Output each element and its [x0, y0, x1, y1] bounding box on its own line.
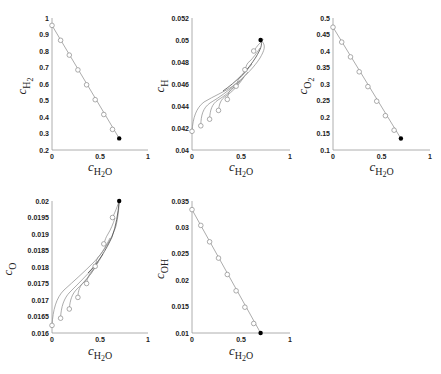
- axes-frame: [333, 18, 430, 150]
- svg-text:0.5: 0.5: [236, 336, 246, 343]
- svg-text:cH2O: cH2O: [229, 159, 253, 179]
- svg-text:0.01: 0.01: [175, 330, 189, 337]
- svg-text:0.035: 0.035: [171, 198, 189, 205]
- x-axis-label: cH2O: [229, 159, 253, 179]
- equilibrium-point: [117, 199, 121, 203]
- x-tick-labels: 0 0.5 1: [190, 153, 292, 160]
- trajectory-curves: [52, 201, 119, 325]
- svg-text:0.5: 0.5: [236, 153, 246, 160]
- plot-cOH: 0.01 0.015 0.02 0.025 0.03 0.035 0 0.5 1…: [152, 198, 292, 364]
- equilibrium-point: [399, 136, 403, 140]
- x-axis-label: cH2O: [88, 159, 112, 179]
- initial-markers: [190, 207, 256, 326]
- x-tick-labels: 0 0.5 1: [331, 153, 432, 160]
- svg-text:0: 0: [190, 336, 194, 343]
- svg-text:0.15: 0.15: [316, 130, 330, 137]
- svg-text:0.5: 0.5: [39, 97, 49, 104]
- svg-text:0.2: 0.2: [320, 114, 330, 121]
- svg-text:1: 1: [146, 336, 150, 343]
- y-axis-label: cOH: [152, 259, 170, 279]
- y-tick-labels: 0.016 0.0165 0.017 0.0175 0.018 0.0185 0…: [28, 198, 50, 337]
- svg-text:0.042: 0.042: [171, 125, 189, 132]
- svg-text:0.4: 0.4: [320, 48, 330, 55]
- svg-text:0.25: 0.25: [316, 97, 330, 104]
- x-tick-labels: 0 0.5 1: [50, 153, 150, 160]
- y-axis-label: cO: [0, 262, 18, 275]
- plot-cH2: 0.2 0.3 0.4 0.5 0.6 0.7 0.8 0.9 1 0 0.5 …: [14, 15, 150, 180]
- svg-text:0.04: 0.04: [175, 147, 189, 154]
- svg-text:cH: cH: [152, 79, 170, 92]
- svg-text:1: 1: [428, 153, 432, 160]
- svg-text:0: 0: [190, 153, 194, 160]
- svg-text:0.45: 0.45: [316, 31, 330, 38]
- svg-text:0.0175: 0.0175: [28, 280, 50, 287]
- y-axis-label: cH: [152, 79, 170, 92]
- initial-markers: [50, 23, 115, 132]
- svg-text:0.018: 0.018: [31, 264, 49, 271]
- initial-markers: [331, 25, 397, 133]
- svg-text:0.046: 0.046: [171, 81, 189, 88]
- equilibrium-point: [258, 38, 262, 42]
- svg-text:0.02: 0.02: [35, 198, 49, 205]
- svg-text:0.015: 0.015: [171, 303, 189, 310]
- svg-text:0.7: 0.7: [39, 64, 49, 71]
- svg-text:0.048: 0.048: [171, 59, 189, 66]
- equilibrium-point: [117, 136, 121, 140]
- svg-text:0.5: 0.5: [95, 153, 105, 160]
- x-axis-label: cH2O: [229, 343, 253, 363]
- svg-text:0: 0: [50, 153, 54, 160]
- svg-text:1: 1: [288, 336, 292, 343]
- x-axis-label: cH2O: [88, 343, 112, 363]
- axes-frame: [192, 201, 290, 333]
- svg-text:0.05: 0.05: [175, 37, 189, 44]
- trajectory-line: [192, 210, 261, 333]
- svg-text:1: 1: [288, 153, 292, 160]
- svg-text:0.0195: 0.0195: [28, 214, 50, 221]
- svg-text:cH2O: cH2O: [369, 159, 393, 179]
- plot-cO: 0.016 0.0165 0.017 0.0175 0.018 0.0185 0…: [0, 198, 150, 364]
- svg-text:0.6: 0.6: [39, 81, 49, 88]
- svg-text:0: 0: [50, 336, 54, 343]
- svg-text:0.5: 0.5: [95, 336, 105, 343]
- svg-text:0.3: 0.3: [39, 130, 49, 137]
- svg-text:0.052: 0.052: [171, 15, 189, 22]
- svg-text:0.2: 0.2: [39, 147, 49, 154]
- svg-text:0.016: 0.016: [31, 330, 49, 337]
- initial-markers: [50, 215, 115, 328]
- axes-frame: [192, 18, 290, 150]
- svg-text:0.02: 0.02: [175, 277, 189, 284]
- svg-text:0.03: 0.03: [175, 224, 189, 231]
- svg-text:cH2: cH2: [14, 77, 35, 94]
- svg-text:0.5: 0.5: [320, 15, 330, 22]
- svg-text:0.4: 0.4: [39, 114, 49, 121]
- svg-text:cOH: cOH: [152, 259, 170, 279]
- svg-text:0.1: 0.1: [320, 147, 330, 154]
- axes-frame: [52, 18, 148, 150]
- svg-text:0.3: 0.3: [320, 81, 330, 88]
- x-axis-label: cH2O: [369, 159, 393, 179]
- svg-text:1: 1: [45, 15, 49, 22]
- svg-text:cH2O: cH2O: [88, 159, 112, 179]
- svg-text:0.9: 0.9: [39, 31, 49, 38]
- equilibrium-point: [258, 331, 262, 335]
- svg-text:1: 1: [146, 153, 150, 160]
- svg-text:0.025: 0.025: [171, 250, 189, 257]
- y-tick-labels: 0.04 0.042 0.044 0.046 0.048 0.05 0.052: [171, 15, 189, 154]
- y-axis-label: cO2: [295, 77, 316, 94]
- y-tick-labels: 0.2 0.3 0.4 0.5 0.6 0.7 0.8 0.9 1: [39, 15, 49, 154]
- y-axis-label: cH2: [14, 77, 35, 94]
- plot-cH: 0.04 0.042 0.044 0.046 0.048 0.05 0.052 …: [152, 15, 292, 180]
- svg-text:0: 0: [331, 153, 335, 160]
- x-tick-labels: 0 0.5 1: [50, 336, 150, 343]
- svg-text:cO: cO: [0, 262, 18, 275]
- svg-text:0.017: 0.017: [31, 297, 49, 304]
- figure-canvas: 0.2 0.3 0.4 0.5 0.6 0.7 0.8 0.9 1 0 0.5 …: [0, 0, 441, 374]
- x-tick-labels: 0 0.5 1: [190, 336, 292, 343]
- svg-text:0.35: 0.35: [316, 64, 330, 71]
- svg-text:0.0165: 0.0165: [28, 313, 50, 320]
- axes-frame: [52, 201, 148, 333]
- initial-markers: [190, 49, 256, 134]
- svg-text:0.5: 0.5: [377, 153, 387, 160]
- svg-text:0.044: 0.044: [171, 103, 189, 110]
- svg-text:cH2O: cH2O: [88, 343, 112, 363]
